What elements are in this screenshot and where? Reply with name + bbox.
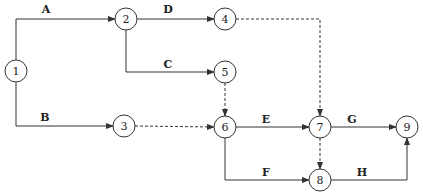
network-diagram: A B C D E F G H 1 2 3 4 5 6 7 8 9 [0,0,423,193]
node-7: 7 [309,116,331,138]
edge-label-f: F [262,166,270,179]
node-4-label: 4 [222,13,229,26]
edge-label-e: E [262,113,270,126]
node-9: 9 [396,116,418,138]
dummy-edge-4-7 [236,19,320,116]
dummy-edge-3-6 [135,126,214,127]
node-1-label: 1 [13,65,20,78]
node-5-label: 5 [222,66,229,79]
edge-label-d: D [163,3,173,16]
node-5: 5 [214,61,236,83]
edge-label-c: C [164,58,173,71]
node-3-label: 3 [121,120,128,133]
node-8: 8 [309,169,331,191]
edge-label-a: A [41,3,51,16]
node-2-label: 2 [123,13,130,26]
node-6-label: 6 [222,121,229,134]
node-3: 3 [113,115,135,137]
node-2: 2 [115,8,137,30]
edge-label-h: H [357,166,367,179]
node-8-label: 8 [317,174,324,187]
edge-a [16,19,115,60]
node-9-label: 9 [404,121,411,134]
edge-label-b: B [40,111,49,124]
node-4: 4 [214,8,236,30]
node-6: 6 [214,116,236,138]
edge-h [331,138,407,180]
edge-label-g: G [347,113,356,126]
node-1: 1 [5,60,27,82]
edge-b [16,82,113,126]
node-7-label: 7 [317,121,324,134]
